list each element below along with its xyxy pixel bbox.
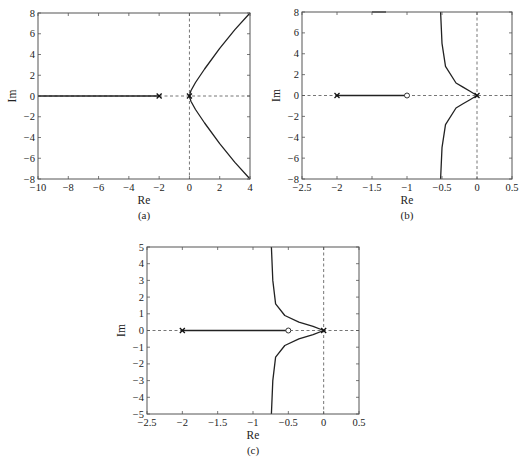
x-tick-label: −1.5 bbox=[362, 182, 381, 193]
x-tick-label: −2 bbox=[177, 417, 188, 428]
x-tick-label: −0.5 bbox=[432, 182, 451, 193]
x-tick-label: 0.5 bbox=[352, 417, 365, 428]
x-tick-label: −8 bbox=[63, 182, 74, 193]
zero-marker-icon bbox=[286, 328, 291, 333]
y-tick-label: 8 bbox=[30, 8, 35, 19]
x-tick-label: −0.5 bbox=[279, 417, 298, 428]
y-axis-label: Im bbox=[115, 324, 127, 337]
y-axis-label: Im bbox=[6, 90, 18, 103]
y-tick-label: −6 bbox=[24, 153, 35, 164]
y-tick-label: −8 bbox=[288, 174, 299, 185]
locus-branch bbox=[189, 13, 250, 96]
x-tick-label: −1 bbox=[401, 182, 412, 193]
x-tick-label: −4 bbox=[123, 182, 135, 193]
locus-branch bbox=[271, 331, 323, 415]
root-locus-figure: −10−8−6−4−2024−8−6−4−202468ReIm(a)−2.5−2… bbox=[0, 0, 528, 470]
y-tick-label: −4 bbox=[24, 132, 36, 143]
x-tick-label: 0 bbox=[187, 182, 192, 193]
x-tick-label: 4 bbox=[247, 182, 253, 193]
x-tick-label: 0 bbox=[321, 417, 326, 428]
x-axis-label: Re bbox=[247, 429, 260, 441]
y-tick-label: −5 bbox=[133, 409, 144, 420]
y-tick-label: 0 bbox=[30, 91, 35, 102]
x-tick-label: −2 bbox=[331, 182, 342, 193]
y-tick-label: 0 bbox=[139, 325, 144, 336]
x-tick-label: −2 bbox=[154, 182, 165, 193]
locus-branch bbox=[441, 12, 477, 96]
x-tick-label: −1.5 bbox=[208, 417, 227, 428]
y-tick-label: −6 bbox=[288, 153, 299, 164]
y-tick-label: 6 bbox=[294, 27, 299, 38]
y-tick-label: 8 bbox=[294, 7, 299, 18]
plot-c: −2.5−2−1.5−1−0.500.5−5−4−3−2−1012345ReIm… bbox=[115, 242, 366, 458]
y-tick-label: −2 bbox=[288, 111, 299, 122]
y-tick-label: −2 bbox=[133, 358, 144, 369]
y-tick-label: −8 bbox=[24, 174, 35, 185]
y-tick-label: −3 bbox=[133, 375, 144, 386]
plot-a: −10−8−6−4−2024−8−6−4−202468ReIm(a) bbox=[6, 8, 253, 223]
subfigure-caption: (c) bbox=[247, 444, 260, 457]
plot-b: −2.5−2−1.5−1−0.500.5−8−6−4−202468ReIm(b) bbox=[270, 7, 519, 223]
y-tick-label: 4 bbox=[139, 258, 145, 269]
zero-marker-icon bbox=[405, 93, 410, 98]
x-tick-label: −1 bbox=[247, 417, 258, 428]
y-tick-label: 4 bbox=[30, 49, 36, 60]
x-axis-label: Re bbox=[138, 194, 151, 206]
subfigure-caption: (a) bbox=[138, 209, 151, 222]
locus-branch bbox=[441, 96, 477, 180]
y-tick-label: 1 bbox=[139, 308, 144, 319]
y-tick-label: −2 bbox=[24, 111, 35, 122]
x-tick-label: 0.5 bbox=[505, 182, 518, 193]
locus-branch bbox=[189, 96, 250, 179]
y-tick-label: 5 bbox=[139, 242, 144, 253]
y-tick-label: 0 bbox=[294, 90, 299, 101]
locus-branch bbox=[271, 247, 323, 331]
y-tick-label: 2 bbox=[294, 69, 299, 80]
y-tick-label: −1 bbox=[133, 342, 144, 353]
x-tick-label: 0 bbox=[474, 182, 479, 193]
y-tick-label: 2 bbox=[139, 292, 144, 303]
y-tick-label: −4 bbox=[288, 132, 300, 143]
x-tick-label: 2 bbox=[217, 182, 222, 193]
y-axis-label: Im bbox=[270, 89, 282, 102]
subfigure-caption: (b) bbox=[401, 209, 414, 222]
y-tick-label: 3 bbox=[139, 275, 144, 286]
x-axis-label: Re bbox=[401, 194, 414, 206]
y-tick-label: 4 bbox=[294, 48, 300, 59]
x-tick-label: −6 bbox=[93, 182, 104, 193]
y-tick-label: 6 bbox=[30, 28, 35, 39]
y-tick-label: −4 bbox=[133, 392, 145, 403]
y-tick-label: 2 bbox=[30, 70, 35, 81]
